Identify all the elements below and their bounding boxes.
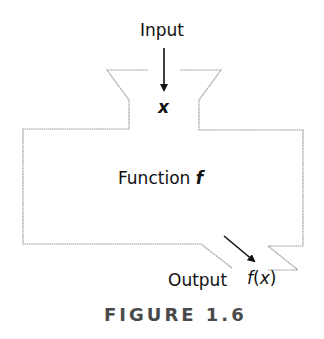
- function-symbol: f: [196, 168, 203, 188]
- output-expression: f(x): [247, 268, 276, 288]
- output-arrow: [224, 236, 254, 261]
- function-word: Function: [118, 168, 190, 188]
- function-label: Function f: [118, 168, 203, 188]
- output-paren-close: ): [270, 268, 277, 288]
- output-label: Output: [168, 270, 227, 290]
- figure-caption: FIGURE 1.6: [104, 304, 247, 325]
- input-label: Input: [140, 20, 184, 40]
- output-paren-open: (: [253, 268, 260, 288]
- input-variable: x: [158, 97, 169, 117]
- output-var: x: [260, 268, 270, 288]
